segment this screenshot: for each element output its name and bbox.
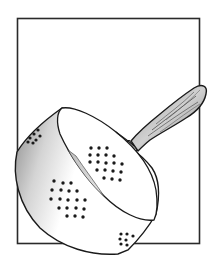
wooden-handle xyxy=(124,86,206,154)
illustration-canvas: Pen-and-ink sketch of a perforated colan… xyxy=(0,0,220,263)
colander-illustration xyxy=(0,0,220,263)
